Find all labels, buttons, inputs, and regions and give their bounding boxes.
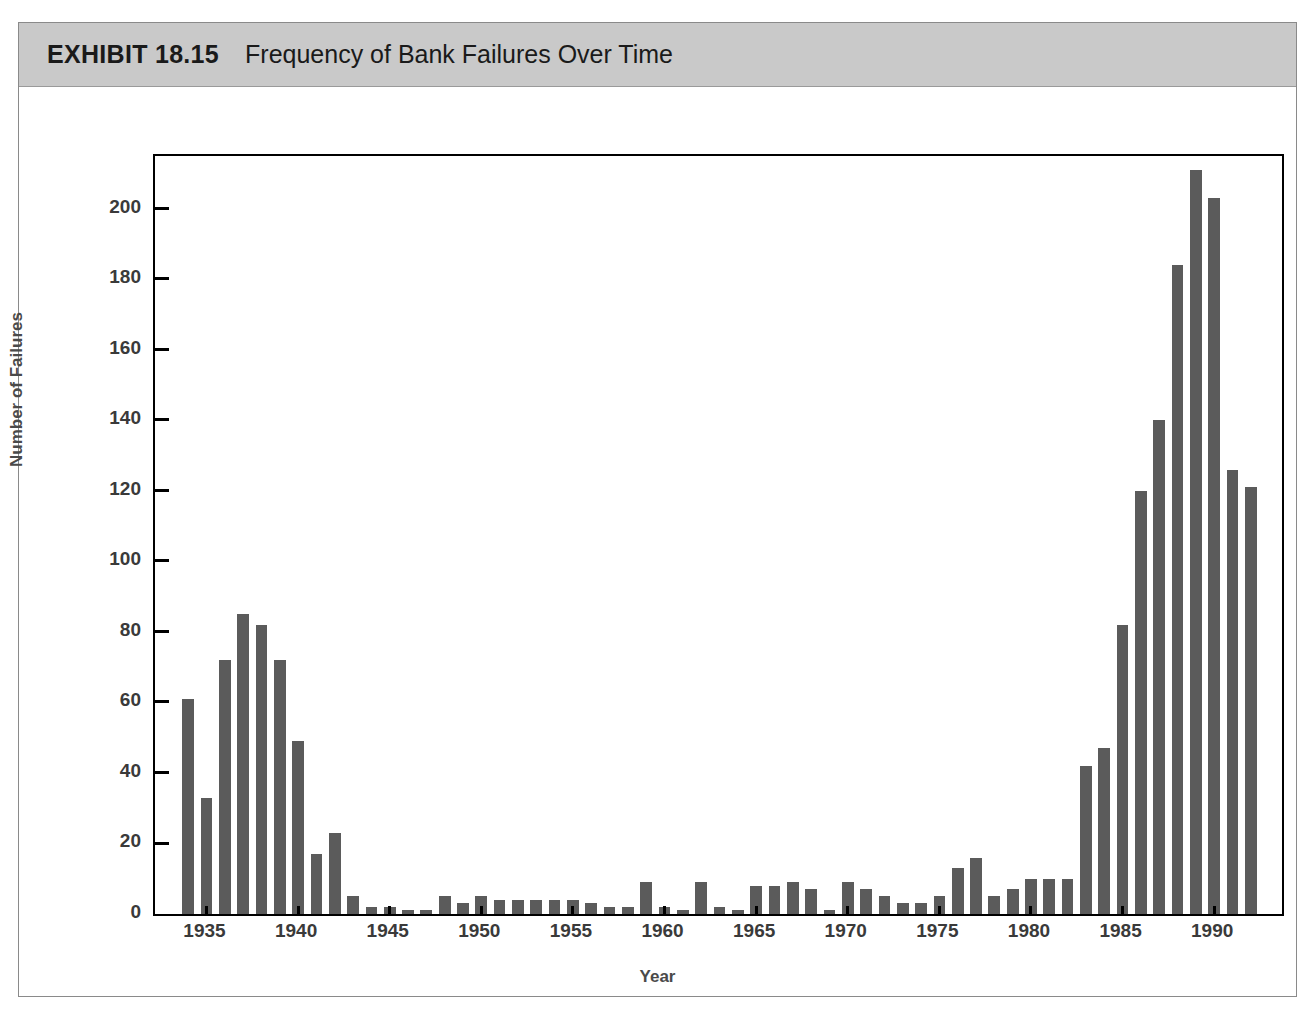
bar <box>1208 198 1220 914</box>
bar <box>420 910 432 914</box>
bar <box>292 741 304 914</box>
y-axis-tick <box>155 771 169 774</box>
x-axis-tick-label: 1970 <box>825 920 867 942</box>
bar <box>915 903 927 914</box>
bar <box>201 798 213 914</box>
bar <box>402 910 414 914</box>
y-axis-tick-label: 0 <box>85 901 141 923</box>
bar <box>274 660 286 914</box>
y-axis-tick <box>155 489 169 492</box>
bar <box>988 896 1000 914</box>
bar <box>1245 487 1257 914</box>
y-axis-tick <box>155 559 169 562</box>
bar <box>824 910 836 914</box>
x-axis-tick <box>1121 906 1124 915</box>
y-axis-tick <box>155 207 169 210</box>
bar <box>1062 879 1074 914</box>
bar <box>1117 625 1129 914</box>
bar <box>787 882 799 914</box>
exhibit-header: EXHIBIT 18.15 Frequency of Bank Failures… <box>19 23 1296 87</box>
x-axis-tick-label: 1960 <box>641 920 683 942</box>
x-axis-tick-label: 1965 <box>733 920 775 942</box>
x-axis-label: Year <box>19 967 1296 987</box>
bar <box>622 907 634 914</box>
x-axis-tick <box>846 906 849 915</box>
bar <box>1098 748 1110 914</box>
bar <box>604 907 616 914</box>
bar <box>769 886 781 914</box>
plot-inner <box>155 156 1282 914</box>
x-axis-tick <box>1213 906 1216 915</box>
y-axis-tick-label: 200 <box>85 196 141 218</box>
y-axis-tick <box>155 418 169 421</box>
y-axis-tick-label: 60 <box>85 689 141 711</box>
y-axis-tick-label: 180 <box>85 266 141 288</box>
bar <box>952 868 964 914</box>
bar <box>494 900 506 914</box>
exhibit-frame: EXHIBIT 18.15 Frequency of Bank Failures… <box>18 22 1297 997</box>
x-axis-tick <box>205 906 208 915</box>
bar <box>311 854 323 914</box>
bar <box>1153 420 1165 914</box>
bar <box>439 896 451 914</box>
bar <box>732 910 744 914</box>
x-axis-tick-label: 1990 <box>1191 920 1233 942</box>
bar <box>879 896 891 914</box>
x-axis-tick <box>297 906 300 915</box>
bar <box>1172 265 1184 914</box>
x-axis-tick <box>571 906 574 915</box>
bar <box>585 903 597 914</box>
y-axis-tick <box>155 348 169 351</box>
x-axis-tick <box>938 906 941 915</box>
bar <box>182 699 194 914</box>
y-axis-tick <box>155 277 169 280</box>
bar <box>530 900 542 914</box>
bar <box>1007 889 1019 914</box>
x-axis-tick-label: 1935 <box>183 920 225 942</box>
x-axis-tick-label: 1955 <box>550 920 592 942</box>
x-axis-tick <box>663 906 666 915</box>
bar <box>1190 170 1202 914</box>
x-axis-tick <box>480 906 483 915</box>
y-axis-tick-label: 80 <box>85 619 141 641</box>
bar <box>329 833 341 914</box>
y-axis-tick <box>155 630 169 633</box>
bar <box>347 896 359 914</box>
bar <box>366 907 378 914</box>
bar <box>237 614 249 914</box>
x-axis-tick <box>1029 906 1032 915</box>
bar <box>897 903 909 914</box>
x-axis-tick-label: 1945 <box>367 920 409 942</box>
bar <box>714 907 726 914</box>
x-axis-tick-label: 1985 <box>1099 920 1141 942</box>
y-axis-tick-label: 140 <box>85 407 141 429</box>
bar <box>512 900 524 914</box>
exhibit-caption: Frequency of Bank Failures Over Time <box>245 40 673 69</box>
plot-area <box>153 154 1284 916</box>
bar-chart: Number of Failures 020406080100120140160… <box>19 87 1296 998</box>
bar <box>805 889 817 914</box>
bar <box>860 889 872 914</box>
x-axis-tick-label: 1980 <box>1008 920 1050 942</box>
y-axis-tick <box>155 842 169 845</box>
bar <box>1043 879 1055 914</box>
bar <box>1080 766 1092 914</box>
bar <box>695 882 707 914</box>
x-axis-tick-label: 1975 <box>916 920 958 942</box>
y-axis-label: Number of Failures <box>7 312 27 467</box>
y-axis-tick-labels: 020406080100120140160180200 <box>79 154 141 916</box>
x-axis-tick <box>755 906 758 915</box>
bar <box>640 882 652 914</box>
y-axis-tick <box>155 700 169 703</box>
x-axis-tick-label: 1940 <box>275 920 317 942</box>
y-axis-tick-label: 160 <box>85 337 141 359</box>
y-axis-tick-label: 20 <box>85 830 141 852</box>
exhibit-number: EXHIBIT 18.15 <box>47 40 219 69</box>
y-axis-tick-label: 40 <box>85 760 141 782</box>
y-axis-tick-label: 120 <box>85 478 141 500</box>
bar <box>677 910 689 914</box>
y-axis-tick-label: 100 <box>85 548 141 570</box>
bar <box>1135 491 1147 914</box>
bar <box>256 625 268 914</box>
bar <box>549 900 561 914</box>
